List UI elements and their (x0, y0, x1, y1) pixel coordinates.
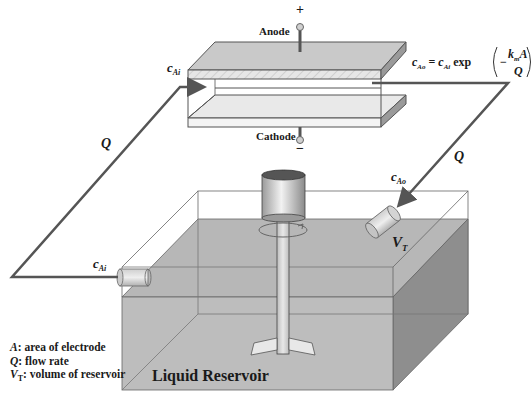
cathode-sign: − (296, 141, 304, 156)
legend: A: area of electrode Q: flow rate VT: vo… (10, 341, 125, 386)
outlet-conc: cAo (391, 169, 406, 186)
inlet-port (117, 269, 151, 286)
motor-body (262, 175, 305, 218)
anode-plate-front (188, 70, 381, 79)
anode-sign: + (296, 2, 304, 17)
stirrer-shaft (277, 218, 289, 354)
cathode-label: Cathode (256, 130, 296, 142)
equation: cAo=cAiexp − kmA Q (412, 47, 531, 78)
legend-item-area: A: area of electrode (10, 341, 125, 355)
legend-item-flow: Q: flow rate (10, 355, 125, 369)
anode-terminal-knob (297, 24, 304, 31)
svg-text:−: − (500, 55, 507, 69)
svg-text:Q: Q (514, 64, 523, 78)
svg-text:kmA: kmA (508, 47, 527, 63)
flow-label-right: Q (454, 149, 464, 164)
svg-text:cAo=cAiexp: cAo=cAiexp (412, 55, 472, 71)
motor-top (262, 170, 305, 180)
legend-item-volume: VT: volume of reservoir (10, 368, 125, 386)
flow-label-left: Q (101, 136, 111, 151)
anode-label: Anode (259, 25, 290, 37)
inlet-conc-top: cAi (167, 60, 181, 77)
cathode-plate-top (188, 95, 406, 118)
inlet-conc-bottom: cAi (93, 256, 107, 273)
anode-plate-top (188, 42, 406, 70)
reservoir-label: Liquid Reservoir (152, 367, 269, 385)
cathode-plate-front (188, 118, 381, 127)
